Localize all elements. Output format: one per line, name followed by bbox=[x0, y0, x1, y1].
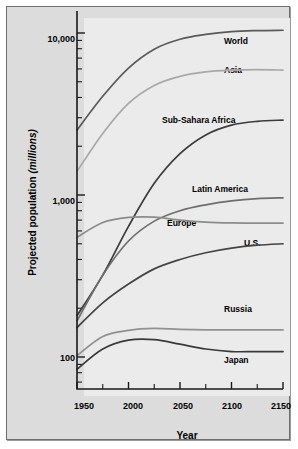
series-line-japan bbox=[77, 339, 283, 369]
series-line-sub-sahara-africa bbox=[77, 120, 283, 316]
series-line-u-s bbox=[77, 244, 283, 328]
series-line-europe bbox=[77, 217, 283, 238]
series-line-world bbox=[77, 30, 283, 130]
chart-svg bbox=[0, 0, 298, 449]
series-line-asia bbox=[77, 70, 283, 172]
axis-lines bbox=[77, 11, 283, 389]
figure-root: Projected population (millions) Year 10,… bbox=[0, 0, 298, 449]
series-lines bbox=[77, 30, 283, 369]
